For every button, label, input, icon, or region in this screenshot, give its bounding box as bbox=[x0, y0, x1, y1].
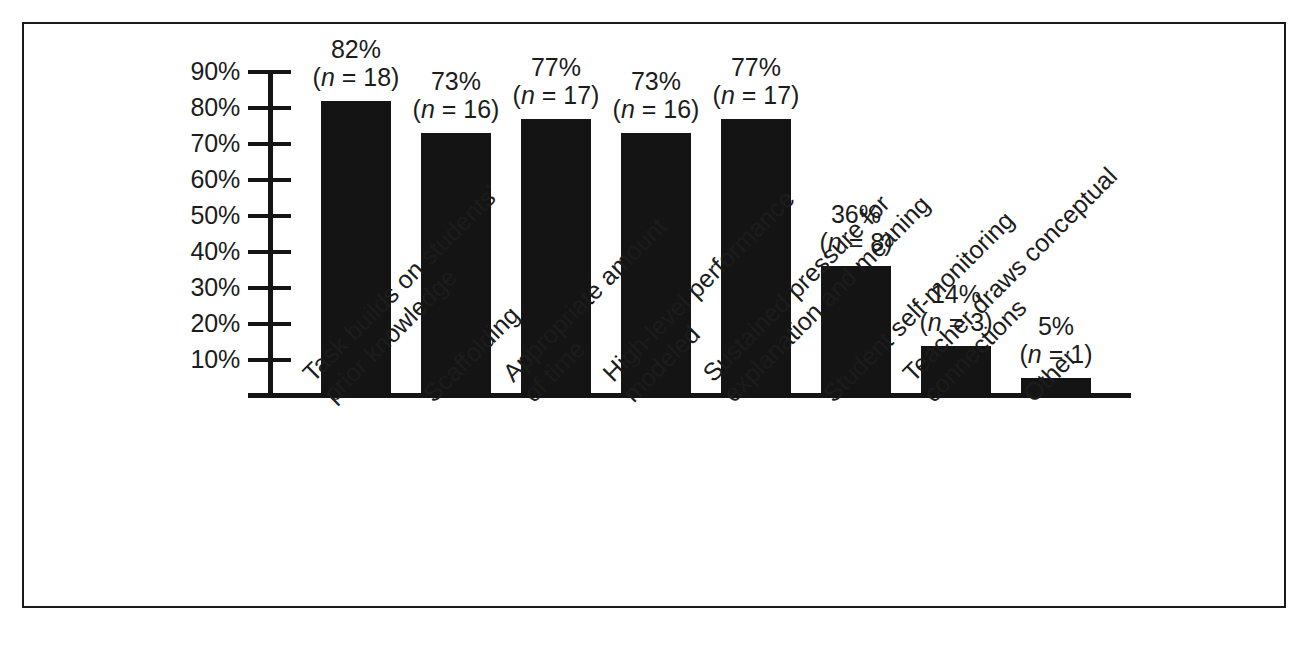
y-axis-tick-label: 10% bbox=[160, 347, 240, 372]
y-axis-tick-mark bbox=[248, 214, 291, 218]
figure-root: 90%80%70%60%50%40%30%20%10% 82%(n = 18)7… bbox=[0, 0, 1296, 649]
bar-chart: 90%80%70%60%50%40%30%20%10% 82%(n = 18)7… bbox=[0, 0, 1296, 649]
y-axis-tick-mark bbox=[248, 358, 291, 362]
y-axis-tick-label: 20% bbox=[160, 311, 240, 336]
bar-percent-value: 77% bbox=[666, 53, 846, 81]
y-axis-tick-label: 90% bbox=[160, 59, 240, 84]
y-axis-spine bbox=[268, 72, 273, 396]
y-axis-tick-mark bbox=[248, 250, 291, 254]
y-axis-tick-label: 40% bbox=[160, 239, 240, 264]
y-axis-tick-label: 60% bbox=[160, 167, 240, 192]
bar-value-label: 77%(n = 17) bbox=[666, 53, 846, 109]
bar-percent-value: 82% bbox=[266, 35, 446, 63]
y-axis-tick-labels: 90%80%70%60%50%40%30%20%10% bbox=[160, 0, 240, 649]
y-axis-tick-label: 70% bbox=[160, 131, 240, 156]
y-axis-tick-label: 50% bbox=[160, 203, 240, 228]
y-axis-tick-mark bbox=[248, 178, 291, 182]
y-axis-tick-mark bbox=[248, 322, 291, 326]
y-axis-tick-mark bbox=[248, 142, 291, 146]
y-axis-tick-label: 30% bbox=[160, 275, 240, 300]
bar-count-value: (n = 17) bbox=[666, 81, 846, 109]
y-axis-tick-label: 80% bbox=[160, 95, 240, 120]
y-axis-tick-mark bbox=[248, 106, 291, 110]
y-axis-tick-mark bbox=[248, 286, 291, 290]
